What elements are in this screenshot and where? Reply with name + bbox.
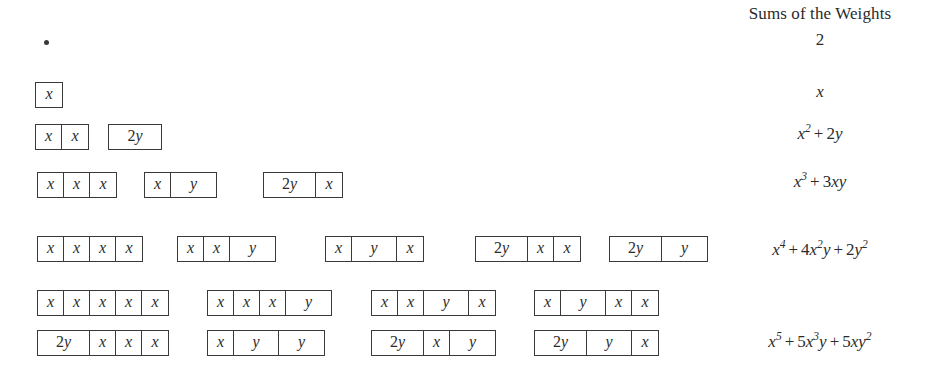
weight-sum-row-n2: x2+2y bbox=[700, 124, 940, 144]
tile-variable: y bbox=[370, 240, 377, 256]
coefficient: 2 bbox=[816, 30, 825, 49]
plus-operator: + bbox=[807, 172, 823, 191]
tile-x: x bbox=[372, 291, 398, 315]
tile-x: x bbox=[208, 291, 234, 315]
tiling-group: 2yx bbox=[263, 172, 343, 198]
tiling-group: 2yy bbox=[609, 236, 708, 262]
tile-y: y bbox=[352, 237, 397, 261]
variable: x5 bbox=[768, 332, 781, 351]
tile-coefficient: 2 bbox=[494, 240, 502, 256]
tile-coefficient: 2 bbox=[390, 334, 398, 350]
tile-variable: y bbox=[305, 294, 312, 310]
tile-variable: x bbox=[381, 294, 388, 310]
tiling-group: xyy bbox=[207, 330, 325, 356]
tile-x: x bbox=[535, 291, 561, 315]
tile-x: x bbox=[142, 291, 168, 315]
tile-variable: x bbox=[99, 240, 106, 256]
tile-y: y bbox=[234, 331, 279, 355]
tile-variable: x bbox=[335, 240, 342, 256]
tile-2y: 2y bbox=[535, 331, 587, 355]
tile-y: y bbox=[286, 291, 331, 315]
tiling-group: xxy bbox=[177, 236, 276, 262]
tile-x: x bbox=[116, 331, 142, 355]
plus-operator: + bbox=[782, 332, 798, 351]
plus-operator: + bbox=[785, 240, 801, 259]
tile-variable: x bbox=[537, 240, 544, 256]
tile-x: x bbox=[62, 125, 88, 149]
tile-x: x bbox=[528, 237, 554, 261]
variable: y bbox=[819, 332, 827, 351]
tiling-group: xx bbox=[35, 124, 89, 150]
tile-variable: x bbox=[47, 240, 54, 256]
tile-x: x bbox=[632, 331, 658, 355]
tile-x: x bbox=[234, 291, 260, 315]
tile-x: x bbox=[38, 291, 64, 315]
variable: x bbox=[816, 82, 824, 101]
variable: x2 bbox=[798, 124, 811, 143]
coefficient: 5 bbox=[842, 332, 851, 351]
weight-sum-row-n5b: x5+5x3y+5xy2 bbox=[700, 332, 940, 352]
coefficient: 3 bbox=[823, 172, 832, 191]
tile-variable: y bbox=[190, 176, 197, 192]
tile-variable: y bbox=[64, 334, 71, 350]
tile-variable: x bbox=[99, 334, 106, 350]
tile-x: x bbox=[64, 173, 90, 197]
tile-variable: x bbox=[407, 294, 414, 310]
tile-variable: y bbox=[252, 334, 259, 350]
tile-x: x bbox=[397, 237, 423, 261]
tile-x: x bbox=[90, 331, 116, 355]
tile-x: x bbox=[90, 291, 116, 315]
tiling-group: x bbox=[35, 82, 63, 108]
exponent: 2 bbox=[862, 238, 868, 251]
tile-x: x bbox=[424, 331, 450, 355]
tile-x: x bbox=[38, 173, 64, 197]
tile-variable: x bbox=[325, 176, 332, 192]
tile-variable: y bbox=[442, 294, 449, 310]
tile-y: y bbox=[171, 173, 216, 197]
coefficient: 2 bbox=[846, 240, 855, 259]
tile-variable: x bbox=[45, 86, 52, 102]
tile-y: y bbox=[424, 291, 469, 315]
exponent: 5 bbox=[776, 330, 782, 343]
plus-operator: + bbox=[811, 124, 827, 143]
tile-variable: x bbox=[73, 240, 80, 256]
tile-variable: y bbox=[561, 334, 568, 350]
weight-sum-row-empty: 2 bbox=[700, 30, 940, 50]
tiling-group: xy bbox=[144, 172, 217, 198]
tiling-group: 2yyx bbox=[534, 330, 659, 356]
tile-x: x bbox=[116, 291, 142, 315]
tile-x: x bbox=[260, 291, 286, 315]
tiling-group: 2yxx bbox=[475, 236, 581, 262]
variable: y2 bbox=[855, 240, 868, 259]
tile-variable: y bbox=[398, 334, 405, 350]
tile-variable: y bbox=[298, 334, 305, 350]
tile-2y: 2y bbox=[38, 331, 90, 355]
tile-variable: x bbox=[217, 294, 224, 310]
variable: x4 bbox=[772, 240, 785, 259]
tiling-group: xyxx bbox=[534, 290, 659, 316]
tile-variable: x bbox=[563, 240, 570, 256]
tile-variable: y bbox=[681, 240, 688, 256]
tile-x: x bbox=[64, 291, 90, 315]
tile-variable: x bbox=[154, 176, 161, 192]
tile-variable: x bbox=[478, 294, 485, 310]
variable: x3 bbox=[794, 172, 807, 191]
tile-x: x bbox=[326, 237, 352, 261]
coefficient: 2 bbox=[826, 124, 835, 143]
tile-x: x bbox=[554, 237, 580, 261]
tile-y: y bbox=[587, 331, 632, 355]
tile-variable: y bbox=[135, 128, 142, 144]
tile-variable: x bbox=[243, 294, 250, 310]
variable: y bbox=[835, 124, 843, 143]
tile-x: x bbox=[145, 173, 171, 197]
tile-variable: x bbox=[406, 240, 413, 256]
tile-x: x bbox=[606, 291, 632, 315]
tile-variable: x bbox=[99, 294, 106, 310]
tile-x: x bbox=[208, 331, 234, 355]
tile-variable: x bbox=[73, 176, 80, 192]
tile-variable: x bbox=[73, 294, 80, 310]
plus-operator: + bbox=[827, 332, 843, 351]
tile-variable: y bbox=[502, 240, 509, 256]
exponent: 2 bbox=[866, 330, 872, 343]
tile-variable: y bbox=[290, 176, 297, 192]
